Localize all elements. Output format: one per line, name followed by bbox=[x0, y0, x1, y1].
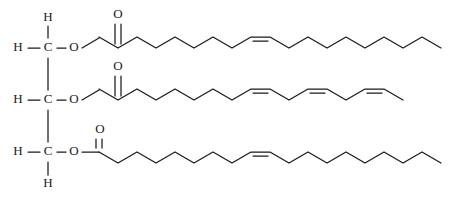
ester-oxygen-label: O bbox=[69, 39, 78, 54]
chain-3-skeleton bbox=[99, 152, 441, 163]
fatty-acid-chain-3: O bbox=[95, 121, 441, 163]
glycerol-backbone: C C C H H H H H O O O bbox=[13, 9, 99, 190]
backbone-carbon-2-label: C bbox=[44, 91, 53, 106]
hydrogen-label: H bbox=[43, 175, 52, 190]
ester-oxygen-label: O bbox=[69, 91, 78, 106]
structure-canvas: C C C H H H H H O O O O bbox=[0, 0, 457, 207]
carbonyl-oxygen-label: O bbox=[113, 6, 122, 21]
carbonyl-oxygen-label: O bbox=[113, 58, 122, 73]
bond-o1-carbonyl1 bbox=[82, 38, 99, 48]
chain-1-skeleton bbox=[99, 37, 441, 48]
ester-oxygen-label: O bbox=[69, 143, 78, 158]
fatty-acid-chain-2: O bbox=[99, 58, 403, 100]
carbonyl-oxygen-label: O bbox=[95, 121, 104, 136]
backbone-carbon-3-label: C bbox=[44, 143, 53, 158]
chain-2-skeleton bbox=[99, 89, 403, 100]
bond-o2-carbonyl2 bbox=[82, 90, 99, 100]
hydrogen-label: H bbox=[43, 9, 52, 24]
hydrogen-label: H bbox=[13, 91, 22, 106]
backbone-carbon-1-label: C bbox=[44, 39, 53, 54]
triglyceride-diagram: C C C H H H H H O O O O bbox=[0, 0, 457, 207]
fatty-acid-chain-1: O bbox=[99, 6, 441, 48]
hydrogen-label: H bbox=[13, 39, 22, 54]
hydrogen-label: H bbox=[13, 143, 22, 158]
